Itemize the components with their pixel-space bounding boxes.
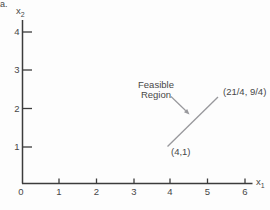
feasible-region-label: FeasibleRegion xyxy=(134,80,178,100)
x-axis-label-subscript: 1 xyxy=(261,181,265,191)
plot-canvas xyxy=(0,0,270,210)
feasible-region-label-line2: Region xyxy=(141,89,171,100)
figure-panel: a. x2 x1 4 3 2 1 0 1 2 3 4 5 6 FeasibleR… xyxy=(0,0,270,210)
x-tick-label-0: 0 xyxy=(18,187,23,197)
y-axis-label-subscript: 2 xyxy=(21,10,25,20)
point-label-21-4-9-4: (21/4, 9/4) xyxy=(223,87,266,97)
y-tick-label-3: 3 xyxy=(14,65,19,75)
x-tick-label-6: 6 xyxy=(242,187,247,197)
x-tick-label-4: 4 xyxy=(167,187,172,197)
figure-item-label: a. xyxy=(0,0,8,9)
y-axis-label: x2 xyxy=(16,6,25,17)
point-label-4-1: (4,1) xyxy=(171,147,191,157)
x-tick-label-3: 3 xyxy=(131,187,136,197)
feasible-region-line xyxy=(168,97,219,147)
x-tick-label-5: 5 xyxy=(205,187,210,197)
y-tick-label-1: 1 xyxy=(14,142,19,152)
x-tick-label-1: 1 xyxy=(56,187,61,197)
y-tick-label-4: 4 xyxy=(14,27,19,37)
x-tick-label-2: 2 xyxy=(94,187,99,197)
axes xyxy=(22,20,253,184)
y-tick-label-2: 2 xyxy=(14,104,19,114)
y-tick-marks xyxy=(23,32,32,147)
x-axis-label: x1 xyxy=(256,177,265,188)
